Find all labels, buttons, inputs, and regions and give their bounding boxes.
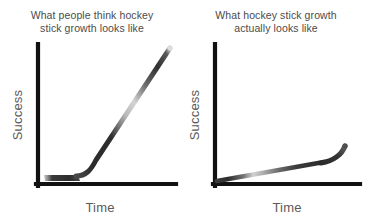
- hockey-stick-butt-end: [167, 45, 172, 50]
- plot-expectation: Success Time: [0, 0, 184, 223]
- panel-expectation: What people think hockey stick growth lo…: [0, 0, 184, 223]
- plot-reality: Success Time: [184, 0, 368, 223]
- hockey-stick-shaft: [217, 162, 324, 181]
- y-axis-label: Success: [187, 89, 202, 140]
- x-axis-label: Time: [85, 200, 114, 215]
- hockey-stick-shaft: [76, 48, 170, 176]
- panel-reality: What hockey stick growth actually looks …: [184, 0, 368, 223]
- hockey-stick-toe: [342, 143, 347, 148]
- hockey-stick-blade: [321, 146, 345, 163]
- x-axis-label: Time: [272, 200, 301, 215]
- y-axis-label: Success: [10, 89, 25, 140]
- hockey-stick-growth-figure: What people think hockey stick growth lo…: [0, 0, 368, 223]
- hockey-stick-butt-end: [215, 179, 219, 183]
